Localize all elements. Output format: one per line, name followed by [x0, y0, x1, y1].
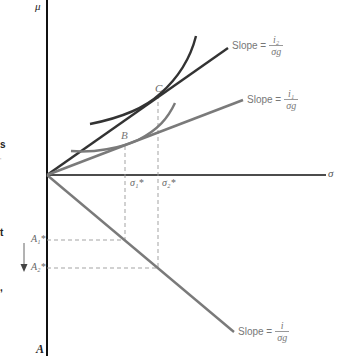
sigma1-star-label: σ₁*: [130, 177, 143, 188]
indifference-curve-b: [71, 103, 175, 151]
down-arrow-icon: [21, 264, 28, 272]
indifference-curve-c: [90, 36, 196, 124]
slope-i1-label: Slope = i₁ σg: [247, 88, 298, 111]
slope-i-fraction: i σg: [275, 320, 289, 343]
sigma-axis-label: σ: [328, 167, 333, 179]
slope-i2-line: [47, 48, 228, 175]
point-b-label: B: [121, 129, 128, 141]
diagram: μ σ A C B σ₁* σ₂* A₁* A₂* Slope = i₂ σg …: [0, 0, 337, 356]
margin-fragment: t: [0, 227, 3, 238]
margin-fragment: ': [0, 157, 1, 164]
slope-i2-label: Slope = i₂ σg: [232, 34, 283, 57]
a2-star-label: A₂*: [31, 261, 46, 272]
margin-fragment: s: [0, 139, 6, 150]
margin-fragment: ,: [0, 282, 3, 293]
a1-star-label: A₁*: [31, 233, 46, 244]
slope-i-line: [47, 175, 234, 332]
slope-i1-fraction: i₁ σg: [284, 88, 298, 111]
sigma2-star-label: σ₂*: [162, 177, 175, 188]
point-c-label: C: [155, 82, 162, 94]
slope-i-label: Slope = i σg: [238, 320, 289, 343]
slope-i2-fraction: i₂ σg: [269, 34, 283, 57]
a-axis-label: A: [36, 342, 44, 356]
mu-axis-label: μ: [35, 0, 41, 12]
